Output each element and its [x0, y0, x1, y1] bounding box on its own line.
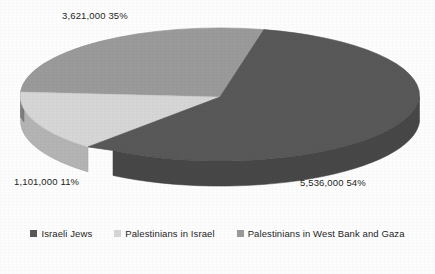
legend-label: Israeli Jews	[41, 228, 92, 239]
legend-swatch-icon	[114, 230, 121, 237]
legend-item-palestinians-in-israel[interactable]: Palestinians in Israel	[114, 228, 214, 239]
legend-swatch-icon	[30, 230, 37, 237]
legend-item-palestinians-west-bank-gaza[interactable]: Palestinians in West Bank and Gaza	[237, 228, 405, 239]
legend-item-israeli-jews[interactable]: Israeli Jews	[30, 228, 92, 239]
chart-plot-area: 3,621,000 35% 1,101,000 11% 5,536,000 54…	[0, 0, 435, 215]
legend-label: Palestinians in Israel	[125, 228, 214, 239]
data-label-palestinians-in-israel: 1,101,000 11%	[14, 176, 79, 187]
legend-swatch-icon	[237, 230, 244, 237]
pie-chart-figure: 3,621,000 35% 1,101,000 11% 5,536,000 54…	[0, 0, 435, 274]
chart-legend: Israeli Jews Palestinians in Israel Pale…	[0, 228, 435, 239]
legend-label: Palestinians in West Bank and Gaza	[248, 228, 405, 239]
data-label-palestinians-west-bank-gaza: 3,621,000 35%	[62, 10, 128, 21]
data-label-israeli-jews: 5,536,000 54%	[300, 177, 366, 188]
pie-top-surface	[20, 28, 419, 161]
